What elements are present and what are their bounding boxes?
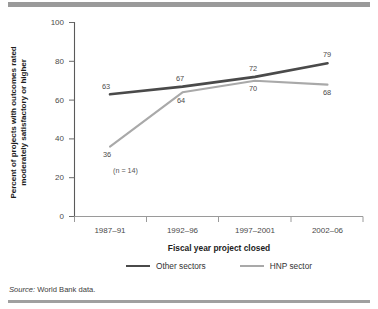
point-label-hnp-sector-2002-06: 68 (323, 88, 331, 97)
source-note: Source: World Bank data. (9, 285, 95, 294)
legend-item-hnp-sector[interactable]: HNP sector (240, 261, 312, 271)
legend-swatch-hnp-sector-icon (240, 265, 264, 267)
legend-label-other-sectors: Other sectors (156, 261, 206, 271)
point-label-hnp-sector-1987-91: 36 (103, 150, 111, 159)
x-tick-label-2002-06: 2002–06 (288, 226, 368, 235)
chart-figure: Percent of projects with outcomes rated … (0, 0, 378, 309)
annotation-sample-size: (n = 14) (113, 166, 138, 175)
y-tick-label-60: 60 (38, 96, 64, 105)
point-label-hnp-sector-1997-2001: 70 (249, 84, 257, 93)
x-axis-title: Fiscal year project closed (74, 243, 364, 253)
point-label-other-sectors-1992-96: 67 (176, 74, 184, 83)
legend-item-other-sectors[interactable]: Other sectors (126, 261, 206, 271)
y-tick-label-100: 100 (38, 18, 64, 27)
x-tick-label-1997-2001: 1997–2001 (215, 226, 295, 235)
legend-label-hnp-sector: HNP sector (270, 261, 312, 271)
y-tick-label-40: 40 (38, 134, 64, 143)
y-tick-label-80: 80 (38, 57, 64, 66)
point-label-other-sectors-2002-06: 79 (323, 50, 331, 59)
y-axis-ticks (69, 23, 75, 217)
x-tick-label-1992-96: 1992–96 (143, 226, 223, 235)
source-prefix: Source: (9, 285, 35, 294)
point-label-other-sectors-1997-2001: 72 (249, 64, 257, 73)
series-line-other-sectors (110, 63, 328, 94)
y-tick-label-20: 20 (38, 173, 64, 182)
y-tick-label-0: 0 (38, 212, 64, 221)
source-text: World Bank data. (35, 285, 95, 294)
x-tick-label-1987-91: 1987–91 (70, 226, 150, 235)
legend-swatch-other-sectors-icon (126, 265, 150, 268)
point-label-hnp-sector-1992-96: 64 (177, 96, 185, 105)
chart-legend: Other sectors HNP sector (74, 261, 364, 271)
x-axis-ticks (75, 217, 364, 223)
point-label-other-sectors-1987-91: 63 (102, 82, 110, 91)
